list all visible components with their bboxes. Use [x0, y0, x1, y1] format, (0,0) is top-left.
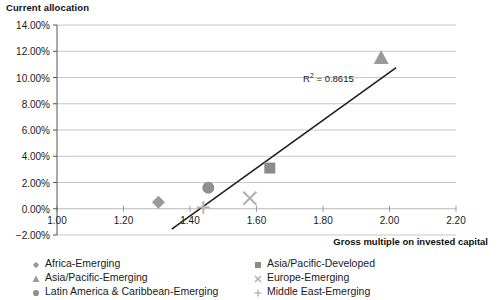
marker-triangle	[374, 50, 389, 64]
legend-item-label: Europe-Emerging	[267, 271, 349, 283]
r-squared-annotation: R2 = 0.8615	[303, 72, 354, 84]
data-point-triangle	[374, 50, 389, 64]
legend-item[interactable]: Middle East-Emerging	[252, 284, 375, 298]
marker-square	[264, 163, 275, 174]
legend-marker-plus-icon	[252, 287, 264, 299]
legend-marker-square-icon	[252, 257, 264, 269]
triangle-icon	[33, 275, 40, 282]
data-point-diamond	[152, 196, 165, 209]
marker-diamond	[152, 196, 165, 209]
circle-icon	[33, 290, 39, 296]
x-axis-tick-label: 1.60	[247, 215, 266, 226]
legend-marker-x-icon	[252, 273, 264, 285]
data-point-square	[264, 163, 275, 174]
chart-legend: Africa-EmergingAsia/Pacific-EmergingLati…	[0, 256, 498, 300]
scatter-plot-area	[0, 0, 498, 300]
legend-item[interactable]: Europe-Emerging	[252, 270, 375, 284]
x-axis-tick-label: 2.00	[380, 215, 399, 226]
y-axis-tick-label: 10.00%	[0, 72, 50, 83]
diamond-icon	[33, 262, 39, 268]
legend-marker-circle-icon	[30, 287, 42, 299]
legend-item[interactable]: Asia/Pacific-Developed	[252, 256, 375, 270]
x-axis-tick-label: 1.40	[180, 215, 199, 226]
x-axis-tick-label: 1.80	[313, 215, 332, 226]
x-axis-tick-label: 1.20	[114, 215, 133, 226]
x-axis-tick-label: 1.00	[47, 215, 66, 226]
legend-item-label: Latin America & Caribbean-Emerging	[45, 285, 218, 297]
y-axis-tick-label: 12.00%	[0, 46, 50, 57]
chart-container: Current allocation −2.00%0.00%2.00%4.00%…	[0, 0, 498, 300]
legend-marker-circle-icon	[30, 285, 42, 297]
x-axis-title: Gross multiple on invested capital	[333, 236, 488, 247]
y-axis-tick-label: 6.00%	[0, 125, 50, 136]
square-icon	[255, 262, 261, 268]
legend-marker-triangle-icon	[30, 271, 42, 283]
legend-marker-triangle-icon	[30, 273, 42, 285]
marker-circle	[202, 182, 214, 194]
legend-item-label: Asia/Pacific-Emerging	[45, 271, 148, 283]
x-axis-tick-label: 2.20	[446, 215, 465, 226]
legend-marker-square-icon	[252, 259, 264, 271]
y-axis-tick-label: 8.00%	[0, 98, 50, 109]
legend-item-label: Africa-Emerging	[45, 257, 120, 269]
y-axis-tick-label: 4.00%	[0, 151, 50, 162]
legend-marker-x-icon	[252, 271, 264, 283]
trendline	[172, 68, 396, 229]
legend-item[interactable]: Latin America & Caribbean-Emerging	[30, 284, 218, 298]
y-axis-tick-label: 2.00%	[0, 177, 50, 188]
data-point-x	[243, 192, 256, 205]
legend-column-left: Africa-EmergingAsia/Pacific-EmergingLati…	[30, 256, 218, 298]
legend-item[interactable]: Africa-Emerging	[30, 256, 218, 270]
y-axis-tick-label: 0.00%	[0, 203, 50, 214]
legend-marker-diamond-icon	[30, 257, 42, 269]
legend-item-label: Asia/Pacific-Developed	[267, 257, 375, 269]
legend-item[interactable]: Asia/Pacific-Emerging	[30, 270, 218, 284]
y-axis-tick-label: −2.00%	[0, 230, 50, 241]
data-point-circle	[202, 182, 214, 194]
legend-marker-plus-icon	[252, 285, 264, 297]
legend-item-label: Middle East-Emerging	[267, 285, 370, 297]
y-axis-tick-label: 14.00%	[0, 20, 50, 31]
legend-column-right: Asia/Pacific-DevelopedEurope-EmergingMid…	[252, 256, 375, 298]
legend-marker-diamond-icon	[30, 259, 42, 271]
